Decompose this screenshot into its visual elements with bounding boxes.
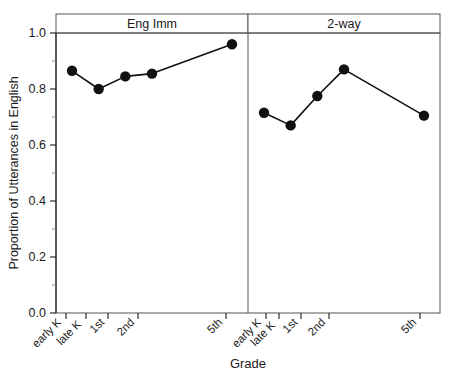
panel-label-2-way: 2-way [327,17,361,31]
x-tick-label-right-4: 5th [399,316,419,336]
x-tick-label-right-2: 1st [280,315,300,335]
x-tick-label-left-2: 1st [87,315,107,335]
y-tick-label-2: 0.4 [29,194,46,208]
y-tick-label-1: 0.2 [29,250,46,264]
x-axis-title: Grade [230,356,266,371]
data-point [312,91,322,101]
x-tick-label-right-3: 2nd [305,316,327,338]
chart-figure: Eng Imm 2-way 0.0 0.2 0.4 0.6 0.8 1.0 Pr… [0,0,458,373]
y-tick-label-0: 0.0 [29,306,46,320]
data-point [259,108,269,118]
data-point [93,84,103,94]
data-point [339,64,349,74]
series-line-2-way [264,69,424,125]
y-tick-label-4: 0.8 [29,82,46,96]
data-point [285,120,295,130]
data-point [120,71,130,81]
y-tick-label-5: 1.0 [29,26,46,40]
x-tick-label-left-3: 2nd [114,316,136,338]
x-axis-ticks-left [66,313,226,319]
y-tick-label-3: 0.6 [29,138,46,152]
panel-label-eng-imm: Eng Imm [127,17,177,31]
data-point [227,39,237,49]
series-2-way [259,64,429,130]
data-point [419,110,429,120]
series-eng-imm [67,39,237,94]
x-tick-label-left-0: early K [30,316,64,350]
data-point [67,66,77,76]
x-tick-label-left-4: 5th [205,316,225,336]
y-axis-ticks [50,33,56,313]
data-point [147,68,157,78]
y-axis-title: Proportion of Utterances in English [7,76,21,269]
series-line-eng-imm [72,44,232,89]
